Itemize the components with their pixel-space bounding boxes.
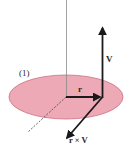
r-label: r <box>78 84 82 94</box>
plane-label: (1) <box>19 68 30 78</box>
r-cross-v-label: r × V <box>69 135 89 145</box>
vector-cross-product-diagram: (1) r V r × V <box>0 0 127 147</box>
v-label: V <box>106 54 113 64</box>
